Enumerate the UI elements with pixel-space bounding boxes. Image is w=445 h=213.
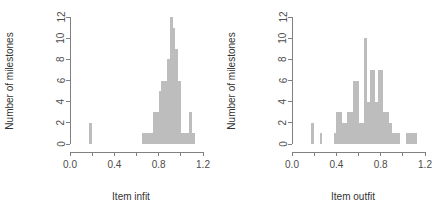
y-tick-label: 6 (56, 77, 67, 83)
histogram-bar (334, 133, 337, 144)
histogram-bar (411, 133, 414, 144)
y-tick-label: 0 (56, 141, 67, 147)
y-tick-label: 2 (278, 120, 289, 126)
x-tick-label: 0.8 (152, 159, 166, 170)
histogram-bar (186, 133, 189, 144)
bars-item-infit (89, 17, 194, 144)
y-axis-title-item-outfit: Number of milestones (226, 32, 237, 129)
x-tick-label: 0.4 (329, 159, 343, 170)
histogram-bar (189, 112, 192, 144)
histogram-bar (184, 133, 187, 144)
histogram-bar (350, 112, 353, 144)
y-tick-label: 4 (56, 98, 67, 104)
y-tick-label: 0 (278, 141, 289, 147)
histogram-bar (173, 28, 176, 144)
histogram-bar (167, 59, 170, 144)
histogram-bar (89, 123, 92, 144)
x-tick-label: 1.2 (196, 159, 210, 170)
histogram-bar (150, 133, 153, 144)
histogram-bar (389, 123, 392, 144)
chart-svg-item-infit: 024681012 0.00.40.81.2 Item infit Number… (0, 0, 222, 213)
x-tick-label: 0.8 (374, 159, 388, 170)
y-tick-label: 2 (56, 120, 67, 126)
y-tick-label: 10 (56, 32, 67, 44)
y-tick-label: 10 (278, 32, 289, 44)
histogram-bar (372, 70, 375, 144)
y-axis-title-item-infit: Number of milestones (4, 32, 15, 129)
y-axis-item-infit (66, 17, 70, 144)
histogram-bar (156, 112, 159, 144)
histogram-bar (353, 81, 356, 145)
histogram-bar (356, 81, 359, 145)
histogram-bar (392, 133, 395, 144)
histogram-bar (347, 112, 350, 144)
histogram-bar (383, 112, 386, 144)
histogram-bar (153, 112, 156, 144)
y-tick-label: 8 (56, 56, 67, 62)
histogram-bar (370, 70, 373, 144)
histogram-bar (148, 133, 151, 144)
x-tick-label: 0.4 (107, 159, 121, 170)
y-tick-label: 8 (278, 56, 289, 62)
histogram-bar (161, 81, 164, 145)
y-axis-item-outfit (288, 17, 292, 144)
histogram-bar (342, 123, 345, 144)
histogram-bar (414, 133, 417, 144)
histogram-bar (375, 102, 378, 144)
x-tick-label: 0.0 (285, 159, 299, 170)
y-tick-label: 12 (278, 11, 289, 23)
histogram-bar (181, 133, 184, 144)
y-tick-label: 12 (56, 11, 67, 23)
panel-item-infit: 024681012 0.00.40.81.2 Item infit Number… (0, 0, 222, 213)
histogram-bar (408, 133, 411, 144)
histogram-bar (367, 102, 370, 144)
x-axis-title-item-infit: Item infit (112, 191, 150, 202)
x-tick-labels-item-outfit: 0.00.40.81.2 (285, 159, 432, 170)
histogram-bar (178, 81, 181, 145)
x-tick-label: 1.2 (418, 159, 432, 170)
histogram-bar (320, 133, 323, 144)
histogram-figure: 024681012 0.00.40.81.2 Item infit Number… (0, 0, 445, 213)
bars-item-outfit (311, 38, 416, 144)
histogram-bar (381, 70, 384, 144)
histogram-bar (145, 133, 148, 144)
histogram-bar (142, 133, 145, 144)
histogram-bar (164, 81, 167, 145)
x-tick-labels-item-infit: 0.00.40.81.2 (63, 159, 210, 170)
x-tick-label: 0.0 (63, 159, 77, 170)
histogram-bar (386, 112, 389, 144)
histogram-bar (397, 133, 400, 144)
histogram-bar (170, 17, 173, 144)
x-axis-item-infit (70, 152, 203, 156)
histogram-bar (359, 123, 362, 144)
histogram-bar (159, 91, 162, 144)
y-tick-label: 6 (278, 77, 289, 83)
histogram-bar (378, 70, 381, 144)
histogram-bar (345, 123, 348, 144)
histogram-bar (175, 49, 178, 144)
histogram-bar (192, 133, 195, 144)
chart-svg-item-outfit: 024681012 0.00.40.81.2 Item outfit Numbe… (222, 0, 444, 213)
histogram-bar (406, 133, 409, 144)
histogram-bar (336, 112, 339, 144)
histogram-bar (339, 112, 342, 144)
y-tick-label: 4 (278, 98, 289, 104)
y-tick-labels-item-outfit: 024681012 (278, 11, 289, 147)
panel-item-outfit: 024681012 0.00.40.81.2 Item outfit Numbe… (222, 0, 444, 213)
histogram-bar (361, 123, 364, 144)
histogram-bar (311, 123, 314, 144)
histogram-bar (395, 133, 398, 144)
x-axis-item-outfit (292, 152, 425, 156)
x-axis-title-item-outfit: Item outfit (331, 191, 375, 202)
y-tick-labels-item-infit: 024681012 (56, 11, 67, 147)
histogram-bar (364, 38, 367, 144)
